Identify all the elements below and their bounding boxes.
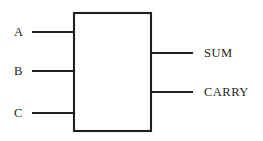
input-label-b: B xyxy=(14,65,23,78)
input-label-a: A xyxy=(14,26,23,39)
diagram-vector-layer xyxy=(0,0,263,141)
adder-block-rectangle xyxy=(74,13,151,131)
output-label-sum: SUM xyxy=(204,47,233,60)
block-diagram-canvas: A B C SUM CARRY xyxy=(0,0,263,141)
output-label-carry: CARRY xyxy=(204,86,249,99)
input-label-c: C xyxy=(14,107,23,120)
